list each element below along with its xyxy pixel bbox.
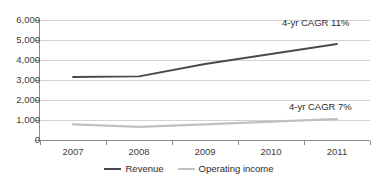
legend-line-swatch-operating-income [178,168,195,170]
operating-income-line [73,119,337,127]
legend-label-revenue: Revenue [125,164,163,174]
legend-label-operating-income: Operating income [199,164,274,174]
revenue-cagr-annotation: 4-yr CAGR 11% [282,18,349,28]
legend-item-revenue[interactable]: Revenue [104,164,163,174]
legend-item-operating-income[interactable]: Operating income [178,164,274,174]
line-chart: 6,000 5,000 4,000 3,000 2,000 1,000 0 20… [0,0,378,184]
operating-income-cagr-annotation: 4-yr CAGR 7% [289,102,352,112]
revenue-line [73,44,337,77]
legend-line-swatch-revenue [104,168,121,170]
legend: Revenue Operating income [0,164,378,174]
